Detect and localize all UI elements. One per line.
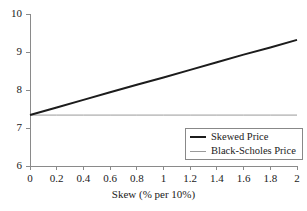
x-tick-label: 2 — [277, 173, 307, 184]
legend-item-black-scholes-price: Black-Scholes Price — [190, 144, 296, 158]
y-tick-label: 6 — [0, 160, 22, 171]
series-line-skewed-price — [30, 40, 297, 115]
legend-label-skewed-price: Skewed Price — [211, 131, 268, 143]
y-tick-label: 7 — [0, 122, 22, 133]
legend-swatch-skewed-price — [190, 136, 206, 138]
y-tick-label: 10 — [0, 8, 22, 19]
legend-label-black-scholes-price: Black-Scholes Price — [211, 145, 296, 157]
y-tick-label: 8 — [0, 84, 22, 95]
legend-swatch-black-scholes-price — [190, 151, 206, 152]
series-lines — [30, 40, 297, 115]
y-tick-label: 9 — [0, 46, 22, 57]
x-axis-title: Skew (% per 10%) — [0, 188, 307, 201]
chart-legend: Skewed Price Black-Scholes Price — [185, 128, 303, 160]
chart-figure: 678910 00.20.40.60.811.21.41.61.82 Skew … — [0, 0, 307, 211]
legend-item-skewed-price: Skewed Price — [190, 130, 268, 144]
